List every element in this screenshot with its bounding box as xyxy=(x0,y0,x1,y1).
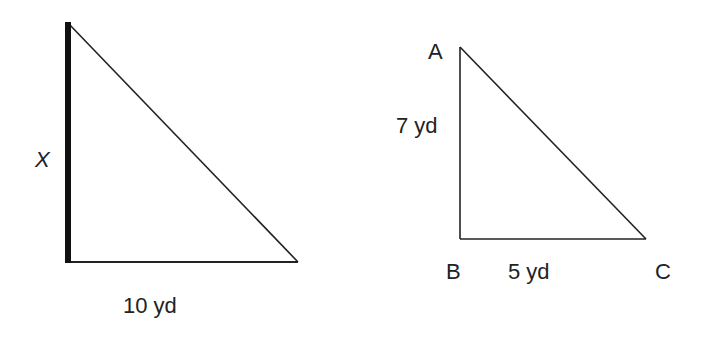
left-base-label: 10 yd xyxy=(123,293,177,318)
vertex-c-label: C xyxy=(655,259,671,284)
left-triangle: X 10 yd xyxy=(34,22,298,318)
vertex-a-label: A xyxy=(428,39,443,64)
diagram-canvas: X 10 yd A 7 yd B 5 yd C xyxy=(0,0,702,344)
left-vertical-side-label: X xyxy=(34,147,51,172)
right-triangle: A 7 yd B 5 yd C xyxy=(396,39,671,284)
vertex-b-label: B xyxy=(446,259,461,284)
side-ac-hypotenuse xyxy=(460,47,646,239)
left-triangle-hypotenuse xyxy=(68,23,298,262)
side-ab-label: 7 yd xyxy=(396,113,438,138)
side-bc-label: 5 yd xyxy=(508,259,550,284)
